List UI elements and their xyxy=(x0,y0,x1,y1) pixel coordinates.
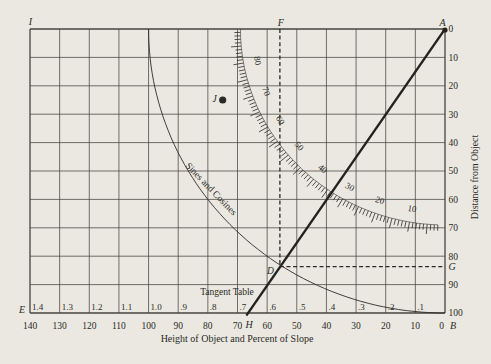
degree-tick xyxy=(376,214,378,220)
y-axis-labels: 0102030405060708090100Distance from Obje… xyxy=(449,24,480,318)
y-axis-tick-label: 100 xyxy=(449,308,464,318)
x-axis-tick-label: 110 xyxy=(112,321,126,331)
degree-label: 30 xyxy=(344,180,357,193)
degree-label: 10 xyxy=(407,203,418,214)
degree-tick xyxy=(426,224,427,234)
tangent-table-value: .7 xyxy=(240,302,247,312)
y-axis-title: Distance from Object xyxy=(469,135,480,220)
tangent-table-title: Tangent Table xyxy=(200,287,254,297)
degree-tick xyxy=(366,211,368,216)
degree-tick xyxy=(299,170,303,174)
tangent-table-value: .9 xyxy=(180,302,187,312)
x-axis-tick-label: 120 xyxy=(82,321,97,331)
degree-tick xyxy=(261,124,266,127)
degree-tick xyxy=(307,177,311,181)
degree-tick xyxy=(318,186,322,191)
degree-tick xyxy=(236,53,242,54)
degree-tick xyxy=(301,172,305,176)
degree-tick xyxy=(268,136,273,139)
degree-tick xyxy=(238,80,248,83)
degree-tick xyxy=(359,208,361,213)
degree-tick xyxy=(251,106,257,108)
degree-tick xyxy=(315,183,319,188)
degree-label: 20 xyxy=(374,194,386,207)
tangent-table-value: 1.1 xyxy=(121,302,132,312)
x-axis-tick-label: 100 xyxy=(141,321,156,331)
degree-tick xyxy=(242,83,248,85)
corner-label-b: B xyxy=(450,320,456,331)
degree-label: 80 xyxy=(252,55,264,66)
degree-tick xyxy=(370,212,372,217)
tangent-table-value: .3 xyxy=(358,302,365,312)
x-axis-labels: 1401301201101009080706050403020100Height… xyxy=(23,321,444,344)
grid xyxy=(30,29,445,313)
degree-tick xyxy=(338,199,343,207)
degree-tick xyxy=(270,139,275,142)
degree-tick xyxy=(256,115,262,118)
x-axis-tick-label: 50 xyxy=(292,321,302,331)
degree-tick xyxy=(321,188,325,193)
degree-tick xyxy=(286,158,291,162)
x-axis-tick-label: 20 xyxy=(381,321,391,331)
tangent-table-value: .6 xyxy=(269,302,276,312)
sine-cosine-curve-label: Sines and Cosines xyxy=(184,161,239,218)
degree-tick xyxy=(423,224,424,230)
degree-tick xyxy=(259,121,264,124)
degree-tick xyxy=(245,90,251,92)
degree-tick xyxy=(405,221,406,227)
degree-tick xyxy=(343,200,346,205)
tangent-table-value: 1.0 xyxy=(151,302,163,312)
degree-tick xyxy=(257,118,262,121)
tangent-table-value: .1 xyxy=(417,302,424,312)
x-axis-tick-label: 140 xyxy=(23,321,38,331)
degree-label: 50 xyxy=(293,140,307,154)
degree-tick xyxy=(250,102,256,104)
x-axis-title: Height of Object and Percent of Slope xyxy=(161,333,314,344)
degree-tick xyxy=(389,218,392,227)
degree-tick xyxy=(234,63,244,65)
point-d-label: D xyxy=(266,266,274,276)
degree-tick xyxy=(394,219,395,225)
y-axis-tick-label: 10 xyxy=(449,53,459,63)
degree-tick xyxy=(380,215,382,221)
corner-label-f: F xyxy=(277,17,285,28)
degree-tick xyxy=(259,127,268,132)
degree-tick xyxy=(312,181,316,186)
corner-label-i: I xyxy=(28,16,33,27)
tangent-table-value: .5 xyxy=(299,302,306,312)
tangent-table-value: .2 xyxy=(388,302,395,312)
degree-tick xyxy=(419,223,420,229)
corner-label-e: E xyxy=(18,304,25,315)
degree-tick xyxy=(248,99,254,101)
degree-arc xyxy=(241,29,438,225)
tangent-table-value: .8 xyxy=(210,302,217,312)
degree-tick xyxy=(246,93,252,95)
y-axis-tick-label: 60 xyxy=(449,195,459,205)
tangent-table-value: 1.3 xyxy=(62,302,74,312)
degree-tick xyxy=(231,46,241,47)
degree-tick xyxy=(241,76,247,77)
tangent-table-value: .4 xyxy=(328,302,335,312)
degree-tick xyxy=(239,70,245,71)
degree-tick xyxy=(387,217,389,223)
degree-tick xyxy=(288,160,293,164)
x-axis-tick-label: 70 xyxy=(233,321,243,331)
corner-label-h: H xyxy=(244,319,253,330)
point-j-dot xyxy=(219,96,226,103)
degree-tick xyxy=(253,109,259,111)
degree-tick xyxy=(244,86,250,88)
tangent-table-row: Tangent Table1.41.31.21.11.0.9.8.7.6.5.4… xyxy=(32,287,424,313)
x-axis-tick-label: 40 xyxy=(322,321,332,331)
x-axis-tick-label: 80 xyxy=(203,321,213,331)
degree-tick xyxy=(383,216,385,222)
y-axis-tick-label: 40 xyxy=(449,138,459,148)
x-axis-tick-label: 0 xyxy=(439,321,444,331)
y-axis-tick-label: 20 xyxy=(449,81,459,91)
degree-tick xyxy=(363,209,365,214)
y-axis-tick-label: 90 xyxy=(449,280,459,290)
degree-tick xyxy=(398,220,399,226)
degree-tick xyxy=(235,49,241,50)
y-axis-tick-label: 50 xyxy=(449,166,459,176)
degree-tick xyxy=(372,213,375,222)
degree-scale: 8070605040302010 xyxy=(231,29,438,234)
